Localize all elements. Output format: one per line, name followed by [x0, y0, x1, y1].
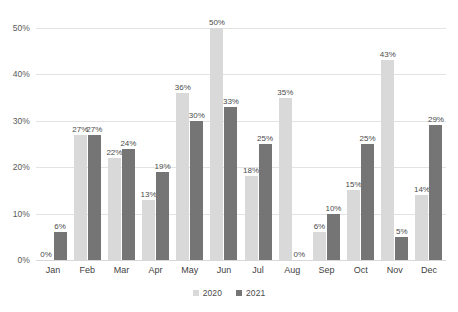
x-tick-label-oct: Oct — [344, 262, 378, 278]
bar-value-label: 22% — [106, 148, 122, 157]
bar-2020-Aug[interactable]: 35% — [279, 98, 292, 260]
bar-value-label: 19% — [155, 162, 171, 171]
bar-slot: 15% — [347, 28, 360, 260]
bar-group: 50%33% — [207, 28, 241, 260]
x-tick-label-jun: Jun — [207, 262, 241, 278]
bar-slot: 35% — [279, 28, 292, 260]
legend-item-2020[interactable]: 2020 — [193, 288, 222, 298]
legend-label: 2021 — [246, 288, 265, 298]
bar-2021-Feb[interactable]: 27% — [88, 135, 101, 260]
x-tick-label-feb: Feb — [70, 262, 104, 278]
bar-slot: 5% — [395, 28, 408, 260]
bar-value-label: 27% — [86, 125, 102, 134]
bar-value-label: 13% — [141, 190, 157, 199]
y-tick-label: 30% — [13, 116, 30, 126]
bar-slot: 33% — [224, 28, 237, 260]
bar-2020-Oct[interactable]: 15% — [347, 190, 360, 260]
bar-slot: 29% — [429, 28, 442, 260]
bar-value-label: 36% — [175, 83, 191, 92]
y-tick-label: 20% — [13, 162, 30, 172]
bar-2020-Feb[interactable]: 27% — [74, 135, 87, 260]
bar-group: 43%5% — [378, 28, 412, 260]
chart-legend: 20202021 — [0, 288, 458, 298]
bar-2021-Oct[interactable]: 25% — [361, 144, 374, 260]
legend-item-2021[interactable]: 2021 — [236, 288, 265, 298]
bar-slot: 27% — [88, 28, 101, 260]
grouped-bar-chart: 0%10%20%30%40%50% 0%6%27%27%22%24%13%19%… — [0, 0, 458, 312]
bar-2021-Nov[interactable]: 5% — [395, 237, 408, 260]
y-tick-label: 40% — [13, 69, 30, 79]
bar-2020-May[interactable]: 36% — [176, 93, 189, 260]
bar-slot: 25% — [361, 28, 374, 260]
bar-2020-Apr[interactable]: 13% — [142, 200, 155, 260]
bar-2020-Mar[interactable]: 22% — [108, 158, 121, 260]
bar-slot: 36% — [176, 28, 189, 260]
bar-2020-Sep[interactable]: 6% — [313, 232, 326, 260]
bar-value-label: 0% — [294, 250, 306, 259]
bar-group: 22%24% — [104, 28, 138, 260]
bar-value-label: 5% — [396, 227, 408, 236]
x-tick-label-jul: Jul — [241, 262, 275, 278]
bar-slot: 27% — [74, 28, 87, 260]
bar-value-label: 25% — [257, 134, 273, 143]
bar-value-label: 6% — [54, 222, 66, 231]
bar-2021-Jan[interactable]: 6% — [54, 232, 67, 260]
bar-value-label: 18% — [243, 166, 259, 175]
bar-value-label: 35% — [277, 88, 293, 97]
x-tick-label-apr: Apr — [139, 262, 173, 278]
x-tick-label-aug: Aug — [275, 262, 309, 278]
y-tick-label: 50% — [13, 23, 30, 33]
legend-swatch-icon — [193, 290, 199, 296]
bar-2021-Dec[interactable]: 29% — [429, 125, 442, 260]
bar-group: 36%30% — [173, 28, 207, 260]
bar-slot: 25% — [259, 28, 272, 260]
bar-slot: 30% — [190, 28, 203, 260]
bar-value-label: 25% — [360, 134, 376, 143]
bar-groups: 0%6%27%27%22%24%13%19%36%30%50%33%18%25%… — [36, 28, 446, 260]
bar-value-label: 43% — [380, 50, 396, 59]
x-tick-label-mar: Mar — [104, 262, 138, 278]
bar-2020-Jun[interactable]: 50% — [210, 28, 223, 260]
x-tick-label-sep: Sep — [309, 262, 343, 278]
legend-label: 2020 — [203, 288, 222, 298]
bar-group: 0%6% — [36, 28, 70, 260]
bar-2020-Dec[interactable]: 14% — [415, 195, 428, 260]
bar-2021-May[interactable]: 30% — [190, 121, 203, 260]
bar-slot: 6% — [313, 28, 326, 260]
bar-value-label: 6% — [314, 222, 326, 231]
bar-slot: 43% — [381, 28, 394, 260]
bar-2021-Apr[interactable]: 19% — [156, 172, 169, 260]
y-axis: 0%10%20%30%40%50% — [0, 28, 34, 260]
bar-2020-Jul[interactable]: 18% — [245, 176, 258, 260]
bar-value-label: 29% — [428, 115, 444, 124]
bar-value-label: 24% — [120, 139, 136, 148]
bar-value-label: 30% — [189, 111, 205, 120]
bar-group: 18%25% — [241, 28, 275, 260]
bar-slot: 0% — [293, 28, 306, 260]
bar-group: 14%29% — [412, 28, 446, 260]
bar-2020-Nov[interactable]: 43% — [381, 60, 394, 260]
x-tick-label-dec: Dec — [412, 262, 446, 278]
gridline — [36, 260, 446, 261]
bar-group: 6%10% — [309, 28, 343, 260]
bar-2021-Jul[interactable]: 25% — [259, 144, 272, 260]
bar-slot: 0% — [40, 28, 53, 260]
bar-slot: 50% — [210, 28, 223, 260]
y-tick-label: 10% — [13, 209, 30, 219]
bar-2021-Mar[interactable]: 24% — [122, 149, 135, 260]
bar-group: 15%25% — [344, 28, 378, 260]
bar-slot: 24% — [122, 28, 135, 260]
bar-slot: 10% — [327, 28, 340, 260]
legend-swatch-icon — [236, 290, 242, 296]
plot-area: 0%6%27%27%22%24%13%19%36%30%50%33%18%25%… — [36, 28, 446, 260]
bar-2021-Sep[interactable]: 10% — [327, 214, 340, 260]
bar-slot: 14% — [415, 28, 428, 260]
bar-value-label: 33% — [223, 97, 239, 106]
bar-group: 13%19% — [139, 28, 173, 260]
bar-value-label: 14% — [414, 185, 430, 194]
bar-value-label: 50% — [209, 18, 225, 27]
y-tick-label: 0% — [18, 255, 31, 265]
bar-2021-Jun[interactable]: 33% — [224, 107, 237, 260]
bar-group: 35%0% — [275, 28, 309, 260]
bar-value-label: 15% — [346, 180, 362, 189]
